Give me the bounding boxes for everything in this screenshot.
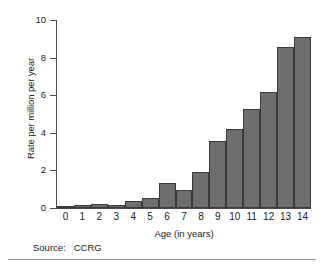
y-tick-label: 6 [22,90,46,100]
y-tick-label: 2 [22,165,46,175]
y-tick-mark [50,208,56,209]
bar [192,172,209,208]
bottom-divider [8,259,316,260]
source-note: Source: CCRG [33,242,102,253]
bar [260,92,277,208]
bar [176,190,193,208]
bar [277,47,294,208]
bar [209,141,226,208]
y-tick-label: 8 [22,53,46,63]
bar-series [57,20,311,208]
y-tick-label: 10 [22,15,46,25]
x-axis-title: Age (in years) [57,228,311,239]
y-tick-label: 4 [22,128,46,138]
bar [294,37,311,208]
chart-figure: Rate per million per year 0246810 012345… [0,0,324,265]
y-tick-mark [50,20,56,21]
x-tick-label: 14 [290,211,316,223]
bar [243,109,260,208]
bar [108,205,125,208]
bar [159,183,176,208]
bar [142,198,159,208]
x-axis-line [56,208,311,209]
y-tick-label: 0 [22,203,46,213]
bar [226,129,243,208]
bar [74,205,91,208]
bar [57,206,74,208]
y-tick-mark [50,133,56,134]
bar [125,201,142,208]
y-tick-mark [50,95,56,96]
y-tick-mark [50,58,56,59]
y-tick-mark [50,170,56,171]
bar [91,204,108,208]
